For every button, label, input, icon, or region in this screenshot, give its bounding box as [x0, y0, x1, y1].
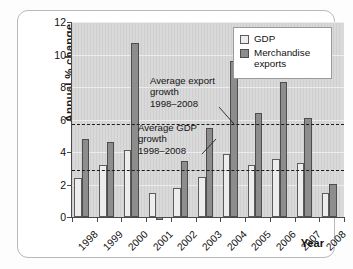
bar-gdp-1999 — [99, 165, 106, 217]
bar-gdp-2003 — [198, 177, 205, 217]
gridline — [72, 120, 344, 121]
x-axis-tick — [97, 217, 98, 222]
x-axis-tick — [295, 217, 296, 222]
reference-line-export-growth — [72, 124, 344, 125]
bar-gdp-2008 — [322, 193, 329, 217]
bar-merchandise-exports-2003 — [206, 128, 213, 217]
x-axis-tick — [72, 217, 73, 222]
bar-merchandise-exports-2008 — [329, 184, 336, 217]
bar-gdp-2006 — [272, 159, 279, 218]
y-axis-tick — [67, 120, 72, 121]
legend-item-merchandise-exports: Merchandise exports — [240, 47, 325, 70]
bar-gdp-2005 — [248, 165, 255, 217]
bar-gdp-2001 — [149, 193, 156, 217]
y-axis-tick — [67, 185, 72, 186]
bar-gdp-2004 — [223, 154, 230, 217]
x-axis-tick — [196, 217, 197, 222]
legend-swatch-merchandise-exports — [240, 49, 249, 58]
annotation-gdp-growth: Average GDP growth 1998–2008 — [138, 122, 197, 156]
y-axis-tick-label: 6 — [46, 115, 66, 126]
y-axis-labels: 024681012 — [40, 11, 66, 257]
y-axis-tick — [67, 152, 72, 153]
gridline — [72, 22, 344, 23]
legend-item-gdp: GDP — [240, 33, 325, 45]
x-axis-line — [71, 217, 344, 218]
x-axis-tick — [344, 217, 345, 222]
legend-swatch-gdp — [240, 35, 249, 44]
legend-label-gdp: GDP — [254, 33, 275, 45]
x-axis-tick — [245, 217, 246, 222]
bar-merchandise-exports-2001 — [156, 217, 163, 220]
y-axis-tick-label: 10 — [46, 50, 66, 61]
y-axis-tick — [67, 55, 72, 56]
y-axis-tick — [67, 22, 72, 23]
bar-gdp-2000 — [124, 150, 131, 217]
x-axis-tick — [121, 217, 122, 222]
bar-merchandise-exports-2004 — [230, 61, 237, 217]
bar-merchandise-exports-1999 — [107, 142, 114, 217]
y-axis-tick-label: 8 — [46, 82, 66, 93]
y-axis-tick-label: 0 — [46, 212, 66, 223]
bar-merchandise-exports-2006 — [280, 82, 287, 217]
annotation-export-growth: Average export growth 1998–2008 — [150, 75, 215, 109]
chart-card: Annual % change 024681012 19981999200020… — [17, 10, 335, 258]
bar-merchandise-exports-1998 — [82, 139, 89, 217]
bar-merchandise-exports-2007 — [304, 118, 311, 217]
x-axis-tick — [270, 217, 271, 222]
y-axis-tick-label: 12 — [46, 17, 66, 28]
y-axis-tick-label: 2 — [46, 180, 66, 191]
legend: GDP Merchandise exports — [233, 27, 332, 79]
x-axis-tick — [220, 217, 221, 222]
bar-gdp-2002 — [173, 188, 180, 217]
x-axis-title: Year — [301, 237, 324, 249]
x-axis-tick — [146, 217, 147, 222]
x-axis-tick — [319, 217, 320, 222]
legend-label-merchandise-exports: Merchandise exports — [254, 47, 325, 70]
bar-gdp-1998 — [74, 178, 81, 217]
reference-line-gdp-growth — [72, 170, 344, 171]
bar-merchandise-exports-2005 — [255, 113, 262, 217]
y-axis-tick — [67, 87, 72, 88]
x-axis-tick — [171, 217, 172, 222]
y-axis-tick-label: 4 — [46, 147, 66, 158]
